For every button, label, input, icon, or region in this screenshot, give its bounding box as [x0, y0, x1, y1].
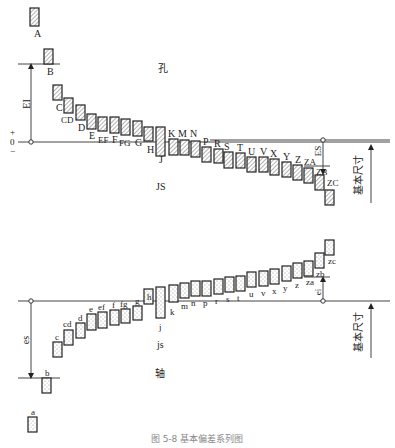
hole-box-e: E	[87, 114, 96, 141]
shaft-label: a	[31, 407, 35, 417]
hole-box-g: G	[133, 121, 142, 148]
hole-label: C	[56, 102, 63, 113]
shaft-box-c: c	[53, 332, 62, 357]
shaft-label: n	[191, 298, 196, 308]
shaft-box-k: k	[169, 285, 178, 317]
ei-label: EI	[21, 99, 32, 108]
hole-box-s: S	[224, 141, 233, 168]
ei-shaft-label: ei	[313, 288, 323, 295]
hole-deviation-boxes: ABCCDDEEFFFGGHJKMNPRSTUVXYZZAZBZC	[30, 8, 339, 205]
hole-label: T	[237, 142, 243, 153]
hole-label: N	[190, 128, 197, 139]
holes-title: 孔	[158, 63, 168, 74]
hole-box-b: B	[44, 49, 54, 77]
hole-box-n: N	[190, 128, 200, 157]
shaft-zero-origin	[29, 299, 33, 303]
shaft-label: s	[226, 294, 230, 304]
hole-box-c: C	[53, 85, 63, 113]
hole-box-p: P	[202, 136, 211, 162]
shaft-label: ef	[98, 302, 105, 312]
shaft-label: c	[55, 332, 59, 342]
shaft-box-e: e	[87, 304, 96, 330]
shaft-box-ef: ef	[98, 302, 107, 328]
shaft-box-d: d	[76, 313, 85, 338]
shaft-box-n: n	[191, 281, 200, 308]
es-label: ES	[313, 146, 323, 157]
hole-label: B	[47, 66, 54, 77]
shaft-js-label: js	[156, 339, 164, 350]
hole-label: Y	[283, 151, 290, 162]
hole-label: K	[168, 128, 176, 139]
hole-label: E	[89, 130, 95, 141]
hole-box-z: Z	[293, 154, 302, 180]
shaft-box-x: x	[270, 269, 279, 296]
hole-label: V	[260, 146, 268, 157]
shaft-label: x	[272, 286, 277, 296]
hole-box-fg: FG	[119, 119, 131, 148]
shaft-box-a: a	[28, 407, 37, 432]
es-shaft-label: es	[20, 336, 31, 344]
shaft-box-y: y	[282, 266, 291, 293]
basic-size-label-hole: 基本尺寸	[352, 155, 364, 195]
shafts-title: 轴	[155, 367, 165, 379]
shaft-label: fg	[120, 299, 128, 309]
hole-label: CD	[61, 115, 74, 125]
shaft-box-zb: zb	[315, 253, 325, 279]
figure-caption: 图 5-8 基本偏差系列图	[151, 433, 243, 444]
shaft-label: k	[170, 307, 175, 317]
shaft-label: b	[45, 368, 50, 378]
shaft-label: p	[203, 298, 208, 308]
zero-minus: −	[10, 146, 15, 156]
hole-label: ZB	[316, 167, 328, 177]
hole-box-zb: ZB	[315, 167, 328, 190]
hole-zero-origin	[29, 140, 33, 144]
shaft-box-cd: cd	[63, 319, 73, 345]
shaft-label: za	[306, 277, 314, 287]
shafts-section: es ei js 轴 基本尺寸 abccddeefffgghjkmnprstuv…	[18, 240, 390, 432]
holes-section: EI ES + 0 − 孔 JS 基本尺寸 ABCCDDEEFFFGGHJKMN…	[10, 8, 390, 205]
shaft-box-za: za	[304, 261, 314, 287]
hole-box-cd: CD	[61, 98, 74, 125]
hole-box-m: M	[178, 128, 189, 155]
shaft-label: zb	[316, 269, 325, 279]
hole-box-v: V	[259, 146, 268, 172]
hole-box-h: H	[144, 127, 154, 155]
shaft-label: u	[249, 289, 254, 299]
hole-box-d: D	[76, 105, 85, 133]
shaft-box-h: h	[144, 289, 153, 304]
hole-label: G	[135, 137, 142, 148]
hole-label: S	[224, 141, 230, 152]
hole-label: R	[214, 138, 221, 149]
zero-plus: +	[10, 127, 15, 137]
shaft-label: r	[215, 296, 218, 306]
shaft-label: d	[78, 313, 83, 323]
hole-label: FG	[119, 138, 131, 148]
hole-box-zc: ZC	[325, 178, 339, 205]
hole-label: F	[112, 134, 118, 145]
shaft-box-v: v	[259, 271, 268, 298]
shaft-label: h	[147, 292, 152, 302]
shaft-label: z	[295, 280, 299, 290]
hole-box-u: U	[247, 146, 256, 172]
hole-box-y: Y	[282, 151, 291, 177]
shaft-box-fg: fg	[120, 299, 130, 323]
shaft-box-p: p	[202, 281, 211, 308]
hole-label: H	[147, 144, 154, 155]
hole-label: P	[203, 136, 209, 147]
hole-label: D	[78, 122, 85, 133]
hole-label: A	[34, 28, 42, 39]
shaft-box-m: m	[180, 283, 189, 311]
shaft-label: j	[158, 322, 162, 332]
hole-label: U	[248, 146, 256, 157]
hole-es-origin	[321, 138, 325, 142]
hole-box-ef: EF	[98, 117, 109, 145]
fundamental-deviation-diagram: EI ES + 0 − 孔 JS 基本尺寸 ABCCDDEEFFFGGHJKMN…	[0, 0, 395, 448]
shaft-box-r: r	[214, 279, 223, 306]
hole-label: J	[159, 154, 163, 165]
shaft-label: zc	[328, 256, 336, 266]
shaft-box-b: b	[42, 368, 51, 393]
shaft-label: e	[89, 304, 93, 314]
hole-box-x: X	[270, 148, 279, 175]
hole-label: Z	[295, 154, 301, 165]
hole-label: X	[270, 148, 278, 159]
